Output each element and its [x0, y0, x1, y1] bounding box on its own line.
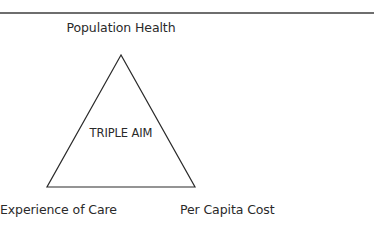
vertex-label-population-health: Population Health — [67, 22, 176, 35]
center-label-triple-aim: TRIPLE AIM — [90, 128, 153, 140]
triangle-shape — [0, 0, 384, 229]
vertex-label-per-capita-cost: Per Capita Cost — [180, 204, 275, 217]
vertex-label-experience-of-care: Experience of Care — [0, 204, 117, 217]
